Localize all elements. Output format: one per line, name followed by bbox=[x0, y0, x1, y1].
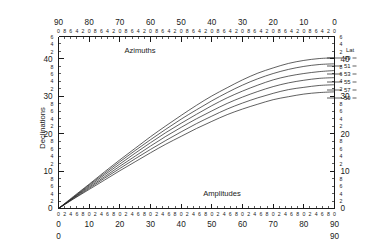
chart-canvas: 0024680102468020246803024680402468050246… bbox=[0, 0, 383, 248]
top-minor-tick-label: 0 bbox=[302, 28, 305, 34]
top-minor-tick-label: 0 bbox=[241, 28, 244, 34]
top-minor-tick-label: 6 bbox=[131, 28, 134, 34]
left-minor-tick-label: 2 bbox=[51, 123, 54, 129]
left-major-tick-label: 40 bbox=[43, 55, 53, 64]
bottom-major-tick-label: 50 bbox=[207, 220, 217, 229]
bottom-minor-tick-label: 4 bbox=[69, 211, 72, 217]
right-minor-tick-label: 8 bbox=[340, 138, 343, 144]
top-major-tick-label: 90 bbox=[54, 18, 64, 27]
left-major-tick-label: 30 bbox=[43, 92, 53, 101]
top-minor-tick-label: 2 bbox=[235, 28, 238, 34]
top-minor-tick-label: 0 bbox=[57, 28, 60, 34]
left-minor-tick-label: 4 bbox=[51, 78, 54, 84]
top-minor-tick-label: 0 bbox=[149, 28, 152, 34]
left-minor-tick-label: 4 bbox=[51, 41, 54, 47]
right-minor-tick-label: 2 bbox=[340, 86, 343, 92]
right-minor-tick-label: 4 bbox=[340, 41, 343, 47]
bottom-minor-tick-label: 4 bbox=[284, 211, 287, 217]
right-minor-tick-label: 6 bbox=[340, 108, 343, 114]
top-minor-tick-label: 8 bbox=[309, 28, 312, 34]
bottom-minor-tick-label: 2 bbox=[278, 211, 281, 217]
left-minor-tick-label: 4 bbox=[51, 153, 54, 159]
top-major-tick-label: 60 bbox=[146, 18, 156, 27]
bottom-minor-tick-label: 0 bbox=[302, 211, 305, 217]
nomogram-figure: 0024680102468020246803024680402468050246… bbox=[0, 0, 383, 248]
bottom-minor-tick-label: 6 bbox=[198, 211, 201, 217]
top-major-tick-label: 40 bbox=[207, 18, 217, 27]
right-minor-tick-label: 6 bbox=[340, 34, 343, 40]
top-minor-tick-label: 2 bbox=[82, 28, 85, 34]
left-minor-tick-label: 8 bbox=[51, 138, 54, 144]
curve-lat-51 bbox=[59, 64, 335, 209]
bottom-right-corner-label: 90 bbox=[330, 232, 340, 241]
bottom-minor-tick-label: 6 bbox=[75, 211, 78, 217]
top-minor-tick-label: 0 bbox=[180, 28, 183, 34]
left-minor-tick-label: 8 bbox=[51, 101, 54, 107]
top-minor-tick-label: 8 bbox=[155, 28, 158, 34]
top-minor-tick-label: 6 bbox=[223, 28, 226, 34]
bottom-minor-tick-label: 6 bbox=[321, 211, 324, 217]
right-minor-tick-label: 8 bbox=[340, 101, 343, 107]
bottom-minor-tick-label: 2 bbox=[217, 211, 220, 217]
bottom-minor-tick-label: 0 bbox=[57, 211, 60, 217]
top-minor-tick-label: 4 bbox=[75, 28, 78, 34]
bottom-minor-tick-label: 6 bbox=[290, 211, 293, 217]
axis-title-azimuths: Azimuths bbox=[124, 46, 155, 55]
top-minor-tick-label: 4 bbox=[167, 28, 170, 34]
top-major-tick-label: 20 bbox=[269, 18, 279, 27]
top-minor-tick-label: 2 bbox=[174, 28, 177, 34]
top-minor-tick-label: 2 bbox=[204, 28, 207, 34]
left-minor-tick-label: 2 bbox=[51, 49, 54, 55]
bottom-minor-tick-label: 2 bbox=[155, 211, 158, 217]
bottom-minor-tick-label: 4 bbox=[131, 211, 134, 217]
top-minor-tick-label: 8 bbox=[125, 28, 128, 34]
top-major-tick-label: 80 bbox=[85, 18, 95, 27]
bottom-minor-tick-label: 2 bbox=[94, 211, 97, 217]
curve-lat-55 bbox=[59, 78, 335, 209]
curve-lat-53 bbox=[59, 71, 335, 209]
right-minor-tick-label: 6 bbox=[340, 146, 343, 152]
right-minor-tick-label: 8 bbox=[340, 64, 343, 70]
top-minor-tick-label: 6 bbox=[284, 28, 287, 34]
right-minor-tick-label: 4 bbox=[340, 78, 343, 84]
bottom-minor-tick-label: 0 bbox=[272, 211, 275, 217]
top-minor-tick-label: 4 bbox=[259, 28, 262, 34]
left-major-tick-label: 0 bbox=[48, 204, 53, 213]
left-minor-tick-label: 2 bbox=[51, 161, 54, 167]
right-minor-tick-label: 4 bbox=[340, 191, 343, 197]
bottom-minor-tick-label: 4 bbox=[161, 211, 164, 217]
top-minor-tick-label: 2 bbox=[296, 28, 299, 34]
bottom-minor-tick-label: 0 bbox=[241, 211, 244, 217]
bottom-major-tick-label: 0 bbox=[56, 220, 61, 229]
bottom-minor-tick-label: 0 bbox=[210, 211, 213, 217]
top-major-tick-label: 50 bbox=[177, 18, 187, 27]
bottom-minor-tick-label: 8 bbox=[327, 211, 330, 217]
bottom-minor-tick-label: 8 bbox=[143, 211, 146, 217]
top-minor-tick-label: 0 bbox=[272, 28, 275, 34]
bottom-minor-tick-label: 2 bbox=[125, 211, 128, 217]
top-major-tick-label: 10 bbox=[299, 18, 309, 27]
bottom-major-tick-label: 40 bbox=[177, 220, 187, 229]
axis-title-declinations: Declinations bbox=[38, 107, 47, 149]
right-minor-tick-label: 2 bbox=[340, 161, 343, 167]
bottom-major-tick-label: 70 bbox=[269, 220, 279, 229]
bottom-major-tick-label: 10 bbox=[85, 220, 95, 229]
top-minor-tick-label: 6 bbox=[192, 28, 195, 34]
bottom-minor-tick-label: 6 bbox=[106, 211, 109, 217]
top-minor-tick-label: 0 bbox=[210, 28, 213, 34]
top-minor-tick-label: 4 bbox=[290, 28, 293, 34]
left-minor-tick-label: 8 bbox=[51, 176, 54, 182]
bottom-minor-tick-label: 2 bbox=[63, 211, 66, 217]
top-minor-tick-label: 0 bbox=[118, 28, 121, 34]
legend-label-lat-49: 49 bbox=[344, 55, 351, 61]
top-minor-tick-label: 2 bbox=[327, 28, 330, 34]
bottom-minor-tick-label: 0 bbox=[149, 211, 152, 217]
bottom-major-tick-label: 30 bbox=[146, 220, 156, 229]
bottom-minor-tick-label: 0 bbox=[180, 211, 183, 217]
bottom-minor-tick-label: 8 bbox=[266, 211, 269, 217]
right-minor-tick-label: 2 bbox=[340, 123, 343, 129]
axis-title-amplitudes: Amplitudes bbox=[203, 189, 241, 198]
left-minor-tick-label: 4 bbox=[51, 191, 54, 197]
right-minor-tick-label: 2 bbox=[340, 49, 343, 55]
curves-layer bbox=[59, 58, 335, 209]
